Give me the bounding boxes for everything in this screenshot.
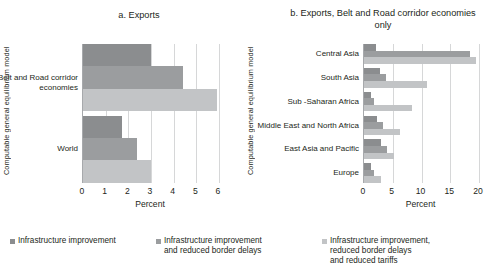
figure: a. Exports Computable general equilibriu… <box>0 0 488 276</box>
panel-a-plot-area <box>82 44 219 183</box>
x-tick-label: 6 <box>208 186 228 196</box>
x-tick-label: 2 <box>117 186 137 196</box>
bar-group <box>83 44 219 112</box>
x-tick-label: 5 <box>185 186 205 196</box>
bar <box>364 81 427 88</box>
gridline <box>219 44 220 183</box>
x-tick-label: 15 <box>439 186 459 196</box>
gridline <box>479 44 480 183</box>
bar-group <box>364 139 479 159</box>
legend-item-label: Infrastructure improvement, reduced bord… <box>330 236 488 267</box>
panel-a-yaxis-title: Computable general equilibrium model <box>2 36 16 186</box>
bar <box>364 57 476 64</box>
panel-a-title: a. Exports <box>40 10 238 22</box>
category-label: Belt and Road corridor economies <box>0 73 78 92</box>
bar <box>83 160 151 182</box>
x-tick-label: 10 <box>411 186 431 196</box>
bar-group <box>364 92 479 112</box>
bar <box>83 89 217 111</box>
bar <box>364 105 412 112</box>
legend-item-label: Infrastructure improvement <box>18 236 160 246</box>
category-label: Sub -Saharan Africa <box>241 97 359 107</box>
gridline <box>450 44 451 183</box>
bar <box>364 98 374 105</box>
bar <box>364 176 381 183</box>
bar <box>364 116 377 123</box>
category-label: World <box>0 144 78 154</box>
category-label: Central Asia <box>241 49 359 59</box>
bar <box>364 170 374 177</box>
category-label: South Asia <box>241 73 359 83</box>
bar <box>83 44 151 66</box>
bar <box>364 129 400 136</box>
panel-b-title: b. Exports, Belt and Road corridor econo… <box>284 8 482 31</box>
panel-exports-corridor: b. Exports, Belt and Road corridor econo… <box>244 0 488 215</box>
panel-b-xaxis-title: Percent <box>363 199 478 209</box>
panel-b-plot-area <box>363 44 479 183</box>
x-tick-label: 4 <box>163 186 183 196</box>
bar <box>364 146 387 153</box>
x-tick-label: 0 <box>353 186 373 196</box>
legend-item-label: Infrastructure improvement and reduced b… <box>164 236 316 256</box>
legend-swatch-icon <box>322 239 327 244</box>
legend-swatch-icon <box>156 239 161 244</box>
legend-swatch-icon <box>10 239 15 244</box>
bar <box>83 66 183 88</box>
bar <box>83 116 122 138</box>
legend-item: Infrastructure improvement <box>10 236 160 246</box>
bar <box>364 163 371 170</box>
bar <box>364 92 371 99</box>
bar <box>83 138 137 160</box>
gridline <box>393 44 394 183</box>
bar-group <box>364 68 479 88</box>
x-tick-label: 5 <box>382 186 402 196</box>
bar <box>364 74 386 81</box>
bar-group <box>364 116 479 136</box>
bar-group <box>364 44 479 64</box>
bar-group <box>83 116 219 184</box>
x-tick-label: 20 <box>468 186 488 196</box>
bar <box>364 122 383 129</box>
panel-a-xaxis-title: Percent <box>82 199 218 209</box>
bar <box>364 68 380 75</box>
bar <box>364 44 376 51</box>
gridline <box>422 44 423 183</box>
legend-item: Infrastructure improvement and reduced b… <box>156 236 316 256</box>
x-tick-label: 3 <box>140 186 160 196</box>
panel-exports: a. Exports Computable general equilibriu… <box>0 0 244 215</box>
bar <box>364 139 381 146</box>
legend-item: Infrastructure improvement, reduced bord… <box>322 236 488 267</box>
category-label: East Asia and Pacific <box>241 144 359 154</box>
legend: Infrastructure improvement Infrastructur… <box>0 236 488 276</box>
category-label: Middle East and North Africa <box>241 121 359 131</box>
x-tick-label: 0 <box>72 186 92 196</box>
x-tick-label: 1 <box>95 186 115 196</box>
bar-group <box>364 163 479 183</box>
bar <box>364 51 470 58</box>
bar <box>364 153 394 160</box>
category-label: Europe <box>241 168 359 178</box>
